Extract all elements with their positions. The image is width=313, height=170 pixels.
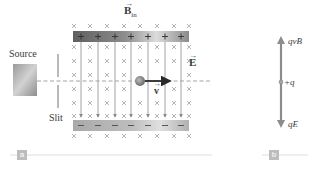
- source-box: [13, 64, 37, 96]
- charged-particle: [135, 76, 145, 86]
- electric-field-lines: [81, 42, 181, 117]
- electric-field-label: → E: [189, 57, 196, 68]
- velocity-label: → v: [154, 86, 159, 96]
- downward-force-label: qE: [288, 120, 298, 129]
- panel-a-tag: a: [17, 150, 27, 160]
- slit-label: Slit: [49, 113, 63, 123]
- velocity-selector-figure: → Bin → E → v Source Slit qvB +q qE a b: [0, 0, 313, 170]
- magnetic-field-label: → Bin: [124, 5, 137, 19]
- upward-force-label: qvB: [288, 37, 302, 46]
- charge-label: +q: [284, 78, 295, 87]
- source-label: Source: [9, 49, 37, 59]
- panel-b-tag: b: [269, 150, 279, 160]
- magnetic-field-subscript: in: [131, 11, 136, 19]
- charge-point: [279, 80, 283, 84]
